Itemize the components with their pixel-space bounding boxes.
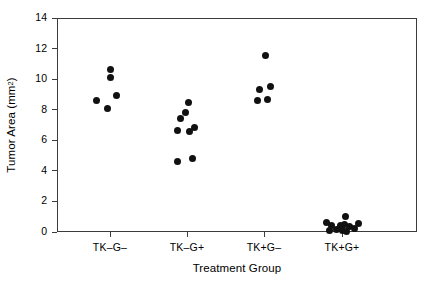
y-axis-label: Tumor Area (mm2) bbox=[0, 18, 22, 232]
y-axis-tick-label: 0 bbox=[41, 226, 47, 237]
scatter-plot-figure: Tumor Area (mm2) 02468101214TK–G–TK–G+TK… bbox=[0, 0, 433, 289]
data-point bbox=[264, 96, 271, 103]
x-axis-tick-label: TK+G– bbox=[219, 241, 309, 253]
data-point bbox=[174, 158, 181, 165]
data-point bbox=[185, 99, 192, 106]
y-axis-label-text: Tumor Area (mm bbox=[5, 86, 17, 173]
y-axis-tick-label: 10 bbox=[35, 73, 47, 84]
y-axis-tick bbox=[52, 170, 57, 171]
y-axis-tick bbox=[52, 18, 57, 19]
x-axis-label: Treatment Group bbox=[57, 262, 417, 274]
y-axis-tick bbox=[52, 140, 57, 141]
data-point bbox=[262, 52, 269, 59]
y-axis-tick bbox=[52, 79, 57, 80]
y-axis-tick-label: 2 bbox=[41, 195, 47, 206]
data-point bbox=[342, 213, 349, 220]
data-point bbox=[254, 97, 261, 104]
y-axis-tick bbox=[52, 201, 57, 202]
y-axis-tick-label: 12 bbox=[35, 43, 47, 54]
data-point bbox=[174, 127, 181, 134]
y-axis-tick-label: 6 bbox=[41, 134, 47, 145]
y-axis-tick bbox=[52, 48, 57, 49]
x-axis-tick-label: TK+G+ bbox=[297, 241, 387, 253]
y-axis-tick bbox=[52, 232, 57, 233]
y-axis-tick-label: 8 bbox=[41, 104, 47, 115]
y-axis-tick-label: 4 bbox=[41, 165, 47, 176]
x-axis-tick bbox=[264, 232, 265, 237]
data-point bbox=[104, 105, 111, 112]
y-axis-tick bbox=[52, 109, 57, 110]
plot-area bbox=[57, 18, 417, 232]
data-point bbox=[343, 228, 350, 235]
y-axis-tick-label: 14 bbox=[35, 12, 47, 23]
y-axis-label-tail: ) bbox=[5, 77, 17, 81]
x-axis-tick bbox=[110, 232, 111, 237]
x-axis-tick bbox=[187, 232, 188, 237]
data-point bbox=[326, 227, 333, 234]
data-point bbox=[107, 74, 114, 81]
data-point bbox=[177, 115, 184, 122]
